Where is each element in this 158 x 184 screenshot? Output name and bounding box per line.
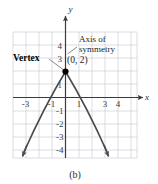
x-tick-label: 1	[77, 99, 82, 109]
grid	[13, 32, 137, 158]
parabola-figure: x y -3 -1 1 3 4 4 3 1 -1 -2 -3 -4	[0, 0, 158, 184]
figure-caption: (b)	[69, 169, 81, 181]
axis-of-symmetry-label-line1: Axis of	[79, 34, 106, 44]
y-tick-label: 4	[58, 41, 63, 51]
x-axis-label: x	[144, 92, 149, 102]
vertex-coordinate-label: (0, 2)	[67, 55, 88, 66]
x-tick-label: 3	[103, 99, 108, 109]
vertex-point	[62, 68, 68, 74]
axis-of-symmetry-label-line2: symmetry	[79, 44, 115, 54]
y-tick-label: -3	[56, 132, 64, 142]
x-tick-label: -3	[22, 99, 30, 109]
y-tick-label: -4	[56, 145, 64, 155]
y-axis-label: y	[68, 4, 73, 14]
x-tick-label: 4	[116, 99, 121, 109]
vertex-label: Vertex	[13, 53, 40, 63]
x-tick-labels: -3 -1 1 3 4	[22, 99, 121, 109]
axis-of-symmetry-leader-line	[68, 47, 78, 54]
y-tick-label: -2	[56, 119, 64, 129]
y-tick-label: 3	[58, 54, 63, 64]
graph-canvas: x y -3 -1 1 3 4 4 3 1 -1 -2 -3 -4	[0, 0, 158, 184]
y-tick-label: -1	[56, 106, 64, 116]
